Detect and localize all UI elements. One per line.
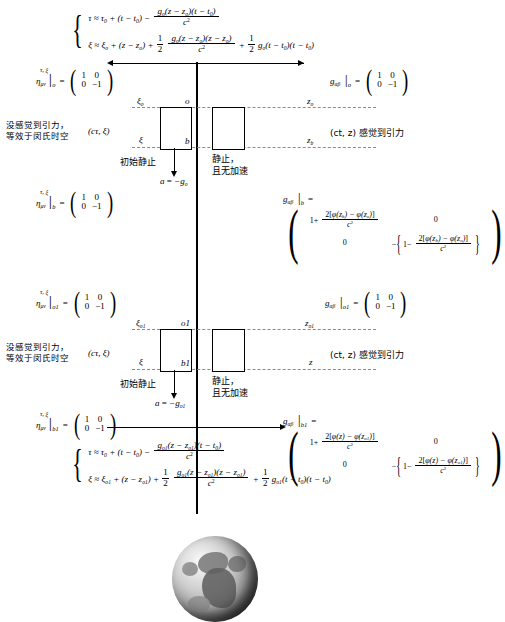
earth-globe: [172, 536, 258, 622]
coords-ctau-xi-bottom: (cτ, ξ): [88, 349, 110, 358]
minkowski-matrix: ( 10 0−1 ): [68, 68, 114, 93]
metric-b1-01: 0: [386, 430, 486, 453]
note-no-gravity-top: 没感觉到引力， 等效于闵氏时空: [6, 120, 69, 143]
bottom-equation-system: { τ ≈ τ0 + (t − t0) − go1(z − zo1)(t − t…: [68, 440, 331, 489]
metric-matrix-b: ( 1+ 2[φ(zb) − φ(zo)] c2 0 0 −{: [283, 207, 505, 257]
metric-b-00: 1+ 2[φ(zb) − φ(zo)] c2: [304, 208, 386, 231]
label-z-o-top: zo: [307, 96, 313, 106]
minkowski-matrix: ( 10 0−1 ): [362, 290, 408, 315]
g-matrix-o: gαβ |o = ( 10 0−1 ): [330, 68, 410, 93]
label-origin-o: o: [185, 96, 190, 106]
metric-b1-11: −{ 1− 2[φ(z) − φ(zo1)] c2 }: [386, 454, 486, 477]
brace-icon: {: [72, 449, 83, 479]
coords-ctau-xi-top: (cτ, ξ): [88, 127, 110, 136]
top-equation-xi: ξ ≈ ξo + (z − zo) + 12 go(z − zo)(z − zo…: [88, 33, 314, 55]
g-matrix-b: gαβ |b = ( 1+ 2[φ(zb) − φ(zo)] c2 0 0: [283, 188, 505, 256]
static-box-top: [212, 107, 245, 150]
eta-matrix-o1: τ, ξ ημν |o1 = ( 10 0−1 ): [36, 290, 118, 315]
label-z-b: zb: [307, 135, 313, 145]
g-matrix-o1: gαβ |o1 = ( 10 0−1 ): [325, 290, 408, 315]
label-point-b: b: [185, 136, 190, 146]
label-point-b1: b1: [181, 358, 190, 368]
label-origin-o1: o1: [181, 318, 190, 328]
eta-matrix-b1: τ, ξ ημν |b1 = ( 10 0−1 ): [36, 412, 118, 437]
brace-icon: {: [72, 15, 83, 45]
top-equation-tau: τ ≈ τ0 + (t − t0) − go(z − zo)(t − t0) c…: [88, 6, 314, 28]
static-box-bottom: [212, 329, 245, 372]
metric-b-11: −{ 1− 2[φ(zb) − φ(zo)] c2 }: [386, 232, 486, 255]
label-xi-o1: ξo1: [136, 318, 145, 328]
note-no-gravity-bottom: 没感觉到引力， 等效于闵氏时空: [6, 342, 69, 365]
minkowski-matrix: ( 10 0−1 ): [68, 190, 114, 215]
label-xi-o-top: ξo: [137, 96, 144, 106]
metric-b-01: 0: [386, 208, 486, 231]
minkowski-matrix: ( 10 0−1 ): [364, 68, 410, 93]
top-equation-system: { τ ≈ τ0 + (t − t0) − go(z − zo)(t − t0)…: [68, 6, 314, 55]
label-xi-bottom-top-panel: ξ: [139, 135, 143, 145]
note-static-top: 静止， 且无加速: [212, 153, 248, 177]
label-z-o1: zo1: [305, 318, 314, 328]
minkowski-matrix: ( 10 0−1 ): [72, 290, 118, 315]
note-feels-gravity-bottom: (ct, z) 感觉到引力: [330, 349, 404, 361]
minkowski-matrix: ( 10 0−1 ): [72, 412, 118, 437]
note-initially-at-rest-top: 初始静止: [120, 156, 156, 168]
note-static-bottom: 静止， 且无加速: [212, 375, 248, 399]
bottom-equation-xi: ξ ≈ ξo1 + (z − zo1) + 12 go1(z − zo1)(z …: [88, 467, 331, 489]
bottom-equation-tau: τ ≈ τ0 + (t − t0) − go1(z − zo1)(t − t0)…: [88, 440, 331, 462]
metric-b-10: 0: [304, 232, 386, 255]
accel-label-bottom: a = −go1: [155, 399, 185, 408]
eta-matrix-b: τ, ξ ημν |b = ( 10 0−1 ): [36, 190, 115, 215]
note-feels-gravity-top: (ct, z) 感觉到引力: [330, 127, 404, 139]
label-z: z: [309, 357, 313, 367]
accel-label-top: a = −go: [160, 177, 187, 186]
label-xi-bottom-panel: ξ: [139, 357, 143, 367]
eta-matrix-o: τ, ξ ημν |o = ( 10 0−1 ): [36, 68, 115, 93]
note-initially-at-rest-bottom: 初始静止: [120, 378, 156, 390]
